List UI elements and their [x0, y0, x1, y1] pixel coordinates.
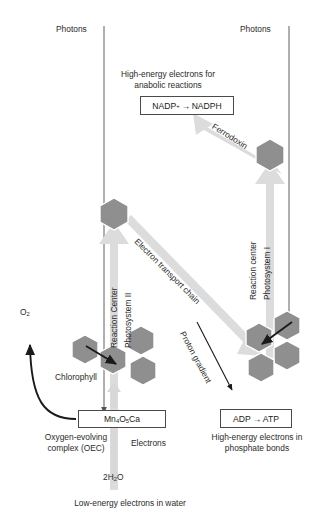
water-label: 2H2O	[103, 473, 123, 483]
adp-caption-line1: High-energy electrons in	[196, 433, 318, 443]
chlorophyll-hexagon	[72, 335, 98, 364]
psi-name-label: Photosystem I	[263, 247, 273, 300]
psii-name-label: Photosystem II	[124, 293, 134, 348]
electrons-label: Electrons	[131, 439, 166, 449]
psii-reaction-center-label: Reaction Center	[110, 287, 120, 348]
oec-formula-box: Mn4O5Ca	[78, 410, 166, 428]
chlorophyll-label: Chlorophyll	[55, 373, 97, 383]
nadp-conversion-box: NADP+→NADPH	[140, 96, 234, 115]
photons-label-right: Photons	[240, 25, 271, 35]
adp-conversion-box: ADP→ATP	[220, 409, 292, 428]
water-prefix: 2H	[103, 472, 114, 482]
adp-product: ATP	[263, 414, 279, 424]
water-suffix: O	[117, 472, 124, 482]
nadp-product: NADPH	[192, 101, 222, 111]
psi-reaction-center-hexagon	[256, 139, 284, 171]
photons-label-left: Photons	[56, 25, 87, 35]
oxygen-label: O2	[20, 308, 30, 318]
bottom-caption: Low-energy electrons in water	[40, 499, 220, 509]
oec-caption-line2: complex (OEC)	[28, 444, 124, 454]
psi-reaction-center-label: Reaction center	[249, 241, 259, 300]
nadp-reactant: NADP	[152, 101, 176, 111]
oec-caption-line1: Oxygen-evolving	[28, 433, 124, 443]
oxygen-subscript: 2	[27, 311, 30, 317]
adp-caption-line2: phosphate bonds	[196, 444, 318, 454]
adp-arrow-glyph: →	[251, 414, 263, 424]
anabolic-caption-line1: High-energy electrons for	[106, 70, 230, 80]
psii-reaction-center-hexagon	[100, 198, 128, 230]
oec-formula: Mn4O5Ca	[104, 414, 140, 424]
photosynthesis-diagram: Photons Photons High-energy electrons fo…	[0, 0, 330, 525]
adp-reactant: ADP	[233, 414, 251, 424]
anabolic-caption-line2: anabolic reactions	[106, 81, 230, 91]
nadp-arrow-glyph: →	[180, 101, 192, 111]
